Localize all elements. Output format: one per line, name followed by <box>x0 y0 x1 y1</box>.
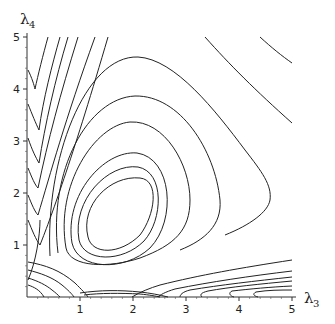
y-axis-label: λ 4 <box>20 10 35 30</box>
y-tick-label-3: 3 <box>13 135 20 148</box>
contour-plot: 1 2 3 4 5 1 2 3 4 5 λ 3 λ 4 <box>0 0 335 324</box>
y-tick-label-2: 2 <box>13 187 20 200</box>
y-ticks <box>23 37 27 287</box>
contour-lines <box>28 37 292 297</box>
x-tick-label-1: 1 <box>77 303 84 316</box>
y-tick-label-5: 5 <box>13 31 20 44</box>
y-tick-label-4: 4 <box>13 83 20 96</box>
x-tick-label-5: 5 <box>289 303 296 316</box>
x-tick-label-4: 4 <box>236 303 243 316</box>
x-tick-label-2: 2 <box>130 303 137 316</box>
x-tick-label-3: 3 <box>183 303 190 316</box>
svg-text:3: 3 <box>313 298 319 309</box>
x-ticks <box>38 297 292 301</box>
y-tick-label-1: 1 <box>13 239 20 252</box>
svg-text:4: 4 <box>29 19 35 30</box>
x-axis-label: λ 3 <box>304 289 319 309</box>
